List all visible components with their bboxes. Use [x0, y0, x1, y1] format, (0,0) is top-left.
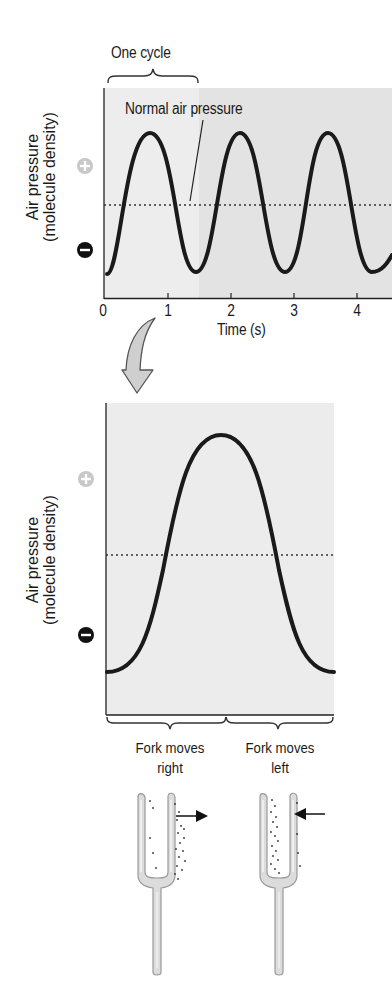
top-plot-bg-light: [104, 88, 199, 298]
one-cycle-bracket: [108, 69, 198, 83]
x-tick-2: 2: [222, 302, 239, 320]
fork-moves-right-caption: Fork moves right: [122, 738, 219, 778]
x-axis-title: Time (s): [217, 321, 266, 339]
normal-air-pressure-label: Normal air pressure: [125, 100, 243, 118]
top-y-axis-label: Air pressure (molecule density): [24, 82, 58, 272]
x-tick-4: 4: [348, 302, 365, 320]
curved-down-arrow-icon: [122, 318, 155, 393]
arrow-right-icon: [196, 810, 208, 822]
bottom-y-axis-label-line1: Air pressure: [24, 465, 41, 655]
x-tick-1: 1: [159, 302, 176, 320]
top-minus-circle-icon: [77, 242, 93, 258]
fork-moves-left-line2: left: [232, 758, 329, 778]
top-y-axis-label-line1: Air pressure: [24, 82, 41, 272]
fork-moves-right-line2: right: [122, 758, 219, 778]
x-tick-0: 0: [94, 302, 111, 320]
diagram-graphics: [0, 0, 392, 1002]
bottom-y-axis-label: Air pressure (molecule density): [24, 465, 58, 655]
fork-moves-left-line1: Fork moves: [232, 738, 329, 758]
bottom-plus-circle-icon: [78, 471, 94, 487]
fork-left-bracket: [226, 717, 333, 729]
top-plus-circle-icon: [77, 158, 93, 174]
tuning-fork-right: [260, 793, 325, 975]
fork-right-bracket: [107, 717, 226, 729]
x-tick-3: 3: [285, 302, 302, 320]
top-plot-bg-dark: [199, 88, 392, 298]
bottom-y-axis-label-line2: (molecule density): [41, 465, 58, 655]
one-cycle-label: One cycle: [111, 44, 171, 62]
bottom-minus-circle-icon: [78, 627, 94, 643]
fork-moves-right-line1: Fork moves: [122, 738, 219, 758]
fork-moves-left-caption: Fork moves left: [232, 738, 329, 778]
tuning-fork-left: [138, 793, 208, 975]
bottom-plot-bg: [106, 403, 334, 715]
top-y-axis-label-line2: (molecule density): [41, 82, 58, 272]
